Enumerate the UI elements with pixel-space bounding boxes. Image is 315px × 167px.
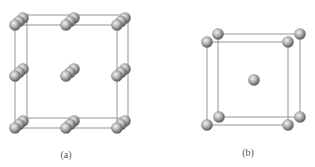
atom-stack — [9, 115, 28, 133]
corner-atom — [294, 28, 305, 39]
center-atom — [248, 74, 259, 85]
corner-atom — [201, 36, 212, 47]
atom-stack — [9, 12, 28, 30]
corner-atom — [294, 111, 305, 122]
corner-atom — [212, 28, 223, 39]
panel-b-atoms — [201, 28, 305, 130]
atom-stack — [60, 63, 79, 81]
panel-a: (a) — [9, 12, 130, 161]
atom-stack — [9, 63, 28, 81]
corner-atom — [282, 36, 293, 47]
panel-b: (b) — [201, 28, 305, 159]
panel-b-label: (b) — [242, 147, 254, 159]
corner-atom — [282, 119, 293, 130]
panel-a-label: (a) — [60, 149, 71, 161]
crystal-structure-figure: (a) (b) — [0, 0, 315, 167]
corner-atom — [201, 119, 212, 130]
panel-a-atoms — [9, 12, 130, 133]
corner-atom — [213, 111, 224, 122]
